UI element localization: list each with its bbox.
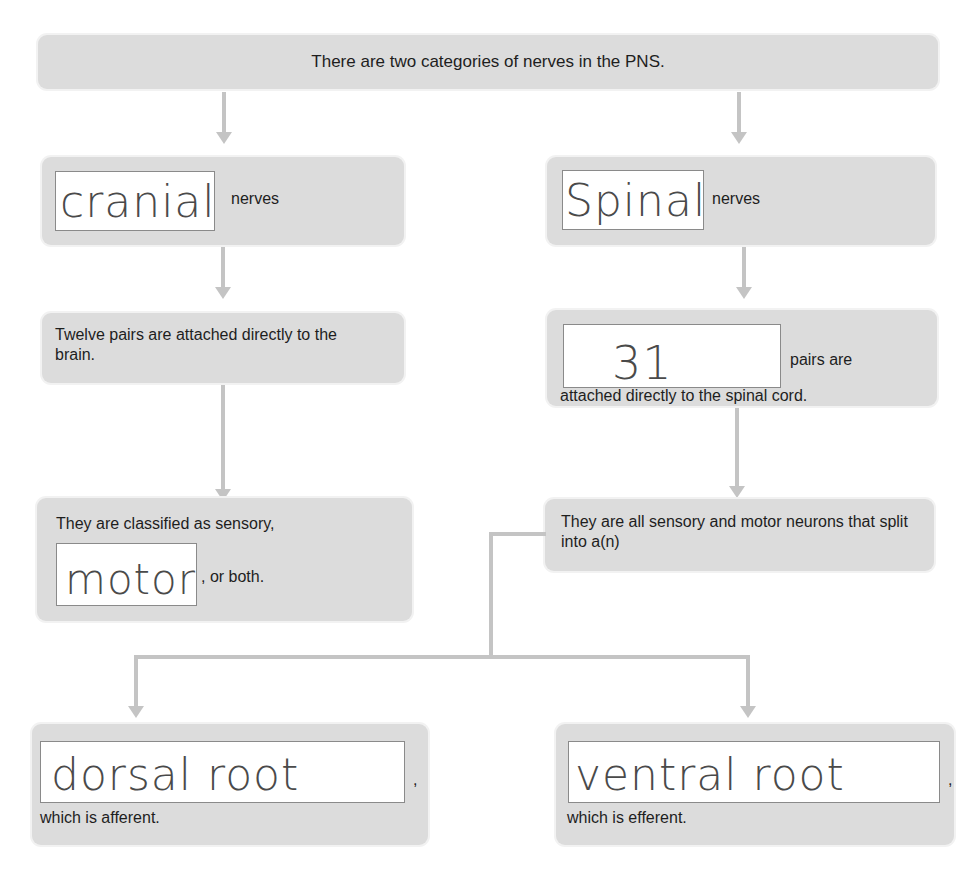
connector-split-v [489,532,493,659]
arrow-down-icon [215,287,231,299]
connector [221,385,225,491]
answer-field-spinal[interactable]: Spinal [562,170,704,230]
split-text: They are all sensory and motor neurons t… [561,512,921,552]
answer-field-cranial[interactable]: cranial [55,171,215,231]
dorsal-comma: , [413,770,417,790]
handwritten-answer: cranial [60,172,215,231]
connector [735,408,739,488]
handwritten-answer: dorsal root [51,746,299,803]
arrow-down-icon [740,706,756,718]
cranial-suffix: nerves [231,189,279,209]
handwritten-answer: 31 [612,333,673,393]
dorsal-caption: which is afferent. [40,808,160,828]
class-prefix: They are classified as sensory, [56,514,274,534]
connector-root-right [737,92,741,134]
answer-field-ventral[interactable]: ventral root [568,741,940,803]
answer-field-31[interactable]: 31 [563,324,781,388]
connector [221,247,225,289]
handwritten-answer: motor [65,552,196,606]
arrow-down-icon [128,706,144,718]
connector-branch-left [134,655,138,711]
arrow-down-icon [729,486,745,498]
connector-branch-h [134,655,750,659]
spinal-suffix: nerves [712,189,760,209]
spinal-count-suffix: pairs are [790,350,852,370]
answer-field-motor[interactable]: motor [56,543,197,606]
connector-branch-right [746,655,750,711]
answer-field-dorsal[interactable]: dorsal root [40,741,405,803]
class-suffix: , or both. [201,567,264,587]
ventral-comma: , [948,770,952,790]
cranial-count-text: Twelve pairs are attached directly to th… [55,325,355,365]
ventral-caption: which is efferent. [567,808,687,828]
handwritten-answer: Spinal [565,171,706,231]
spinal-count-line2: attached directly to the spinal cord. [560,386,807,406]
arrow-down-icon [736,287,752,299]
connector-root-left [222,92,226,134]
connector-split-h [490,532,546,536]
root-text: There are two categories of nerves in th… [38,52,938,72]
arrow-down-icon [216,132,232,144]
handwritten-answer: ventral root [575,746,845,803]
connector [742,247,746,289]
arrow-down-icon [731,132,747,144]
